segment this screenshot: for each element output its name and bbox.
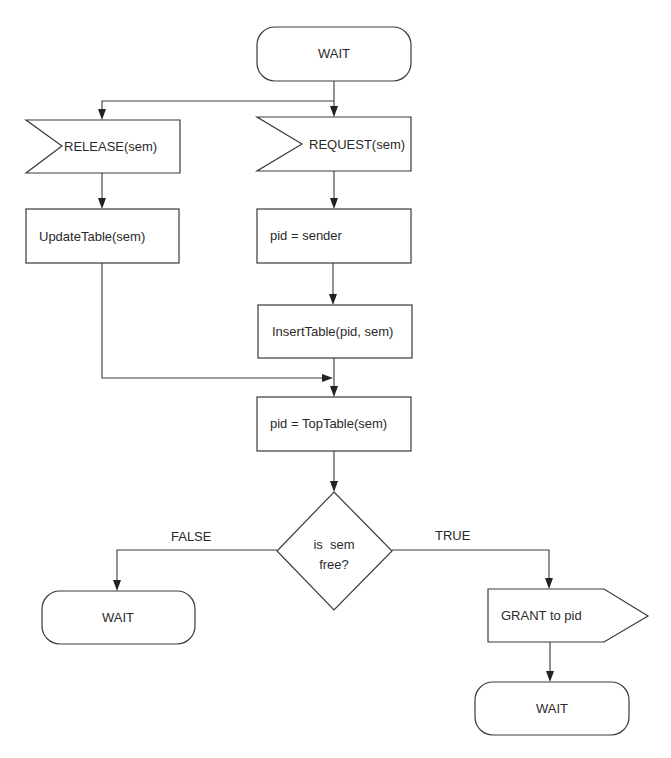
- node-wait-false[interactable]: WAIT: [42, 591, 195, 644]
- arrowhead-down-icon: [98, 198, 106, 209]
- flowchart-canvas: WAIT RELEASE(sem) REQUEST(sem) UpdateTab…: [0, 0, 671, 758]
- arrowhead-down-icon: [330, 386, 338, 397]
- arrowhead-down-icon: [98, 109, 106, 120]
- node-label: pid = sender: [270, 228, 343, 243]
- node-wait-true[interactable]: WAIT: [475, 682, 629, 735]
- node-label: GRANT to pid: [501, 608, 582, 623]
- node-label: pid = TopTable(sem): [270, 416, 387, 431]
- arrowhead-down-icon: [330, 481, 338, 492]
- arrowhead-down-icon: [329, 294, 337, 305]
- decision-label-line2: free?: [319, 557, 349, 572]
- node-label: WAIT: [102, 610, 134, 625]
- decision-label-line1: is sem: [313, 537, 354, 552]
- connector-false-branch: [117, 550, 277, 585]
- node-wait-top[interactable]: WAIT: [257, 27, 411, 81]
- edge-label-false: FALSE: [171, 529, 212, 544]
- node-request[interactable]: REQUEST(sem): [257, 117, 411, 171]
- arrowhead-down-icon: [545, 578, 553, 589]
- arrowhead-down-icon: [113, 580, 121, 591]
- node-decision[interactable]: is sem free?: [277, 492, 392, 610]
- node-release[interactable]: RELEASE(sem): [26, 120, 180, 173]
- node-update-table[interactable]: UpdateTable(sem): [26, 209, 179, 263]
- connector-wait-to-release: [102, 101, 334, 112]
- arrowhead-right-icon: [322, 374, 333, 382]
- connector-true-branch: [392, 550, 549, 583]
- arrowhead-down-icon: [330, 198, 338, 209]
- node-label: REQUEST(sem): [309, 137, 405, 152]
- node-label: InsertTable(pid, sem): [272, 324, 393, 339]
- node-label: WAIT: [318, 46, 350, 61]
- node-label: RELEASE(sem): [64, 139, 157, 154]
- node-grant[interactable]: GRANT to pid: [488, 589, 648, 642]
- arrowhead-down-icon: [546, 671, 554, 682]
- edge-label-true: TRUE: [435, 528, 471, 543]
- node-insert-table[interactable]: InsertTable(pid, sem): [258, 305, 412, 358]
- node-label: UpdateTable(sem): [39, 229, 145, 244]
- node-pid-sender[interactable]: pid = sender: [257, 209, 411, 263]
- node-label: WAIT: [536, 701, 568, 716]
- arrowhead-down-icon: [330, 106, 338, 117]
- node-top-table[interactable]: pid = TopTable(sem): [257, 397, 411, 451]
